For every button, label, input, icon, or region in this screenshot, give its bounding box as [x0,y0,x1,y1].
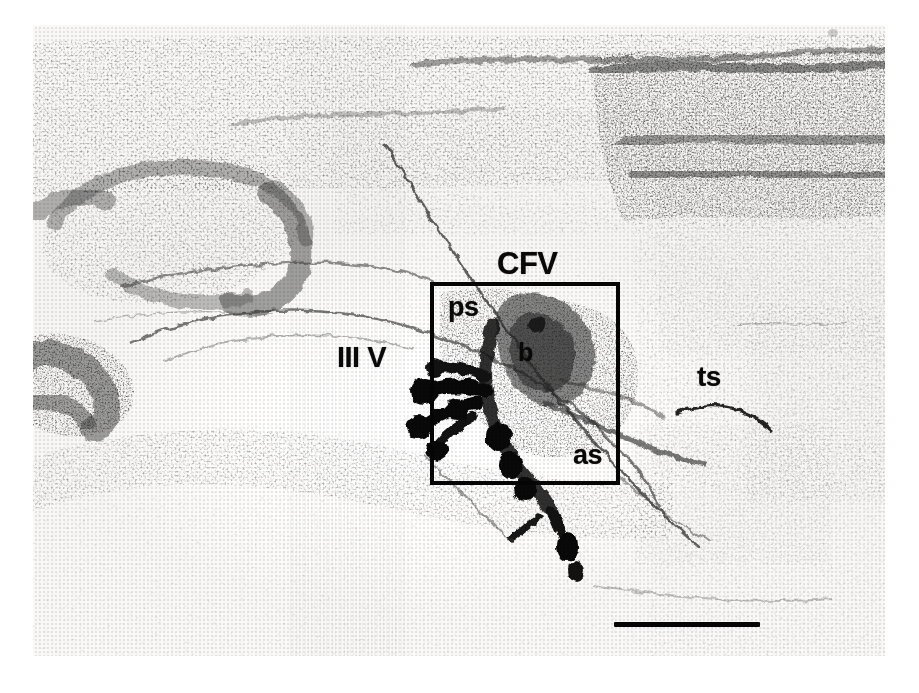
label-ts: ts [697,363,721,391]
label-as: as [573,442,602,469]
label-third-ventricle: III V [337,343,386,372]
label-b: b [518,340,533,365]
label-cfv: CFV [497,248,558,279]
scale-bar [614,622,760,627]
figure-root: CFV ps b as III V ts [0,0,919,693]
label-ps: ps [448,294,479,321]
micrograph-plate: CFV ps b as III V ts [33,25,885,656]
